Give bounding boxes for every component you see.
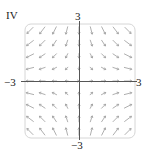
vector-field-plot [0, 0, 143, 154]
